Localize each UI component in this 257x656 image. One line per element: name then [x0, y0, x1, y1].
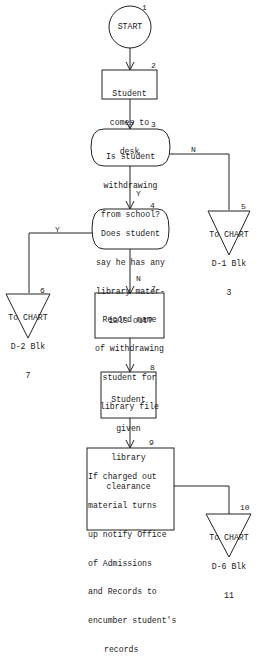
text-line: Does student	[92, 229, 169, 239]
text-line: of withdrawing	[95, 344, 164, 354]
connector-10-text: To CHART D-6 Blk 11	[205, 514, 253, 610]
text-line: 11	[205, 591, 253, 601]
connector-6-text: To CHART D-2 Blk 7	[5, 294, 51, 390]
text-line: library mater-	[92, 287, 169, 297]
node-number-5: 5	[241, 202, 246, 211]
text-line: D-2 Blk	[5, 342, 51, 352]
text-line: given	[101, 424, 156, 434]
edge-label-y-3-4: Y	[136, 189, 141, 198]
text-line: To CHART	[206, 230, 252, 240]
node-number-10: 10	[240, 503, 250, 512]
text-line: Student	[102, 89, 157, 99]
text-line: To CHART	[205, 533, 253, 543]
text-line: If charged out	[88, 472, 178, 482]
text-line: Student	[101, 395, 156, 405]
text-line: To CHART	[5, 313, 51, 323]
text-line: Record name	[95, 315, 164, 325]
text-line: 3	[206, 288, 252, 298]
text-line: up notify Office	[88, 530, 178, 540]
text-line: and Records to	[88, 587, 178, 597]
text-line: D-1 Blk	[206, 259, 252, 269]
text-line: comes to	[102, 118, 157, 128]
text-line: encumber student's	[88, 616, 178, 626]
edge-label-y-4-6: Y	[55, 225, 60, 234]
text-line: 7	[5, 371, 51, 381]
start-node-label: START	[109, 22, 151, 32]
text-line: Is student	[91, 152, 170, 162]
text-line: say he has any	[92, 258, 169, 268]
process-9-text: If charged out material turns up notify …	[88, 453, 178, 656]
edge-label-n-3-5: N	[191, 145, 196, 154]
text-line: D-6 Blk	[205, 562, 253, 572]
text-line: records	[88, 645, 178, 655]
node-number-1: 1	[142, 3, 147, 12]
text-line: of Admissions	[88, 559, 178, 569]
node-number-2: 2	[151, 61, 156, 70]
text-line: material turns	[88, 501, 178, 511]
connector-5-text: To CHART D-1 Blk 3	[206, 211, 252, 307]
text-line: withdrawing	[91, 181, 170, 191]
edge-label-n-4-7: N	[136, 274, 141, 283]
